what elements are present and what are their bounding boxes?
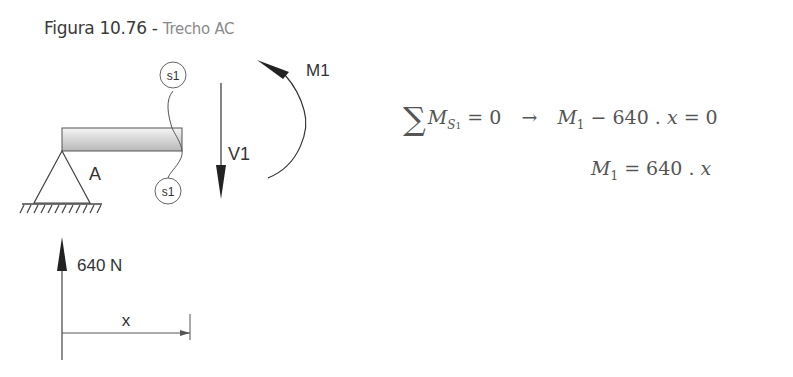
sum-symbol: ∑	[403, 100, 426, 138]
reaction-arrow-icon	[57, 237, 67, 360]
free-body-diagram: s1 s1 A V1 M1	[0, 0, 360, 377]
support-label-A: A	[89, 164, 101, 184]
svg-text:s1: s1	[167, 69, 180, 83]
moment-arrow-icon	[257, 60, 306, 178]
moment-equilibrium-equation: ∑MS1 = 0 → M1 − 640 . x = 0	[403, 100, 718, 138]
implies-arrow: →	[521, 106, 537, 128]
shear-label: V1	[228, 144, 250, 164]
section-marker-top: s1	[160, 62, 186, 88]
moment-result-equation: M1 = 640 . x	[591, 157, 711, 183]
section-marker-bottom: s1	[155, 178, 181, 204]
beam-segment	[62, 128, 182, 151]
svg-text:s1: s1	[162, 185, 175, 199]
moment-label: M1	[306, 61, 330, 80]
shear-arrow-icon	[216, 83, 226, 199]
reaction-label: 640 N	[77, 256, 122, 275]
distance-label: x	[122, 311, 131, 330]
